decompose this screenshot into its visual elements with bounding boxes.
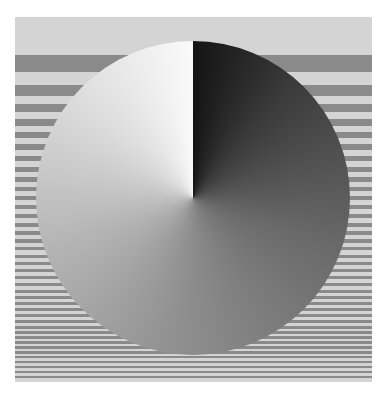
stripe: [15, 356, 372, 358]
stripe: [15, 366, 372, 368]
stripe: [15, 376, 372, 378]
stripe: [15, 371, 372, 373]
stripe: [15, 361, 372, 363]
shaded-disc: [36, 41, 350, 355]
